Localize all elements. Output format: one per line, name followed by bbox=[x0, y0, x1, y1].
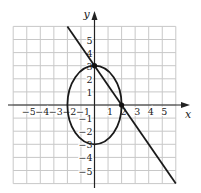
y-axis-arrow-icon bbox=[92, 11, 98, 20]
y-tick-label: −5 bbox=[78, 166, 92, 177]
y-tick-label: −4 bbox=[78, 152, 92, 163]
y-tick-label: −2 bbox=[78, 126, 92, 137]
x-tick-label: −4 bbox=[35, 106, 49, 117]
x-tick-label: 4 bbox=[148, 106, 154, 117]
x-tick-label: −2 bbox=[62, 106, 76, 117]
x-tick-label: −5 bbox=[22, 106, 36, 117]
y-tick-label: 1 bbox=[86, 87, 92, 98]
intersection-point bbox=[92, 63, 97, 68]
axes: x y bbox=[8, 8, 192, 188]
intersection-point bbox=[119, 102, 124, 107]
coordinate-plane: x y −5−4−3−2−11234554321−1−2−3−4−5 bbox=[0, 0, 201, 193]
y-tick-label: 2 bbox=[86, 74, 92, 85]
x-tick-label: 1 bbox=[107, 106, 113, 117]
x-tick-label: 5 bbox=[161, 106, 167, 117]
y-tick-label: −1 bbox=[78, 113, 92, 124]
y-tick-label: 5 bbox=[86, 35, 92, 46]
y-axis-label: y bbox=[83, 8, 91, 21]
x-tick-label: 3 bbox=[134, 106, 140, 117]
x-axis-label: x bbox=[185, 108, 192, 121]
x-tick-label: −3 bbox=[49, 106, 63, 117]
